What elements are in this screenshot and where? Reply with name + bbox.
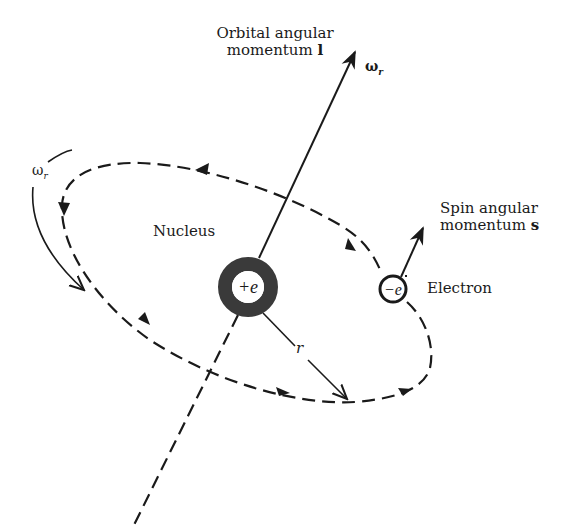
orbital-angular-momentum-vector: [259, 52, 355, 258]
nucleus: +e: [225, 264, 271, 310]
omega-r-top-label: ωr: [365, 58, 383, 81]
arrowhead-right-top: [345, 238, 356, 251]
spin-label-line1: Spin angular: [440, 200, 539, 217]
spin-label-line2: momentum s: [440, 217, 539, 234]
spin-angular-momentum-vector: [401, 228, 423, 277]
radius-arrow-upper: [263, 313, 295, 346]
arrowhead-left: [58, 202, 70, 216]
spin-angular-momentum-label: Spin angular momentum s: [440, 200, 539, 234]
radius-label: r: [296, 340, 303, 357]
electron: −e: [380, 276, 406, 302]
radius-arrow-lower: [308, 360, 347, 399]
omega-r-left-label: ωr: [32, 162, 48, 185]
nucleus-label: Nucleus: [153, 223, 215, 240]
electron-label: Electron: [427, 280, 492, 297]
atom-diagram: +e −e Orbital angular momentum l ωr ωr N…: [0, 0, 571, 527]
nucleus-charge: +e: [238, 277, 258, 297]
orbital-label-line2: momentum l: [205, 42, 345, 59]
orbital-label-line1: Orbital angular: [205, 25, 345, 42]
rotation-axis-dashed: [133, 315, 238, 527]
arrowhead-bottom-left: [276, 387, 290, 396]
arrowhead-bottom-right: [398, 388, 412, 396]
electron-charge: −e: [384, 281, 402, 298]
omega-rotation-arrow-top: [48, 150, 72, 162]
orbital-symbol: l: [318, 41, 324, 59]
orbital-angular-momentum-label: Orbital angular momentum l: [205, 25, 345, 59]
spin-symbol: s: [531, 216, 539, 234]
arrowhead-left-lower: [138, 312, 150, 325]
arrowhead-top: [195, 163, 209, 175]
